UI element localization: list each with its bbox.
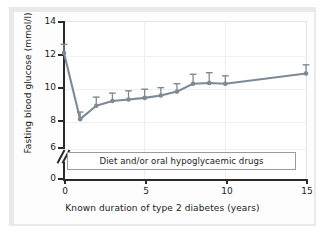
data-point xyxy=(207,81,212,86)
series-layer xyxy=(0,0,325,233)
data-point xyxy=(159,93,164,98)
data-point xyxy=(304,71,309,76)
x-axis-title: Known duration of type 2 diabetes (years… xyxy=(0,203,325,213)
treatment-annotation-box: Diet and/or oral hypoglycaemic drugs xyxy=(67,152,296,170)
treatment-annotation-label: Diet and/or oral hypoglycaemic drugs xyxy=(100,156,264,166)
data-point xyxy=(62,51,67,56)
data-point xyxy=(110,99,115,104)
data-point xyxy=(175,89,180,94)
data-point xyxy=(94,103,99,108)
data-point xyxy=(126,97,131,102)
data-point xyxy=(223,81,228,86)
series-line xyxy=(64,53,306,119)
data-point xyxy=(191,81,196,86)
data-point xyxy=(142,96,147,101)
chart-figure: 14 12 10 8 6 0 0 5 10 15 Diet and/or ora… xyxy=(0,0,325,233)
data-point xyxy=(78,117,83,122)
y-axis-title: Fasting blood glucose (mmol/l) xyxy=(23,3,33,163)
